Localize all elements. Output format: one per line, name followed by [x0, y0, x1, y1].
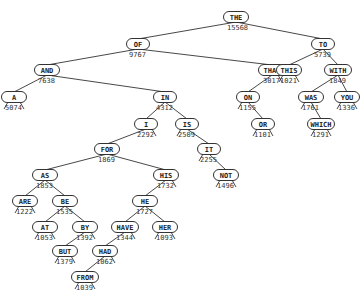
node-count: 1062: [96, 258, 113, 266]
node-count: 15568: [227, 24, 248, 32]
tree-node-at: AT: [32, 221, 58, 233]
tree-edge: [236, 22, 323, 39]
node-count: 4312: [156, 104, 173, 112]
tree-node-but: BUT: [52, 245, 78, 257]
node-count: 3017: [263, 77, 280, 85]
tree-node-are: ARE: [12, 195, 38, 207]
node-count: 1761: [302, 104, 319, 112]
tree-node-her: HER: [152, 221, 178, 233]
node-count: 2292: [137, 131, 154, 139]
tree-edge: [138, 22, 236, 39]
tree-node-you: YOU: [334, 91, 360, 103]
tree-node-is: IS: [175, 118, 199, 130]
tree-node-and: AND: [34, 64, 60, 76]
tree-edge: [47, 75, 165, 92]
tree-node-in: IN: [153, 91, 177, 103]
tree-node-for: FOR: [94, 143, 120, 155]
node-count: 1732: [157, 182, 174, 190]
node-count: 1853: [36, 182, 53, 190]
tree-node-it: IT: [197, 143, 221, 155]
tree-edge: [107, 154, 166, 170]
tree-node-the: THE: [223, 11, 249, 23]
node-count: 1379: [56, 258, 73, 266]
node-count: 5739: [314, 51, 331, 59]
tree-node-have: HAVE: [111, 221, 139, 233]
node-count: 1039: [76, 284, 93, 292]
node-count: 1101: [254, 131, 271, 139]
tree-node-not: NOT: [213, 169, 239, 181]
node-count: 1344: [116, 234, 133, 242]
tree-node-a: A: [1, 91, 27, 103]
node-count: 2255: [200, 156, 217, 164]
tree-node-which: WHICH: [307, 118, 335, 130]
tree-node-his: HIS: [153, 169, 179, 181]
tree-node-or: OR: [251, 118, 275, 130]
node-count: 5074: [5, 104, 22, 112]
node-count: 1392: [76, 234, 93, 242]
tree-node-with: WITH: [324, 64, 352, 76]
tree-node-by: BY: [72, 221, 98, 233]
node-count: 1053: [36, 234, 53, 242]
tree-node-to: TO: [311, 38, 335, 50]
word-frequency-tree: THE15568OF9767TO5739AND7638THAT3017THIS1…: [0, 0, 363, 304]
node-count: 1155: [239, 104, 256, 112]
tree-edge: [47, 49, 138, 65]
node-count: 1869: [98, 156, 115, 164]
tree-node-he: HE: [132, 195, 158, 207]
node-count: 1021: [280, 77, 297, 85]
tree-node-as: AS: [32, 169, 58, 181]
tree-edge: [138, 49, 272, 65]
node-count: 2509: [178, 131, 195, 139]
tree-node-of: OF: [126, 38, 150, 50]
node-count: 1849: [329, 77, 346, 85]
tree-node-was: WAS: [298, 91, 324, 103]
node-count: 1727: [136, 208, 153, 216]
node-count: 1496: [217, 182, 234, 190]
tree-node-had: HAD: [92, 245, 118, 257]
node-count: 1093: [156, 234, 173, 242]
tree-node-i: I: [134, 118, 158, 130]
node-count: 1291: [312, 131, 329, 139]
tree-node-from: FROM: [71, 271, 99, 283]
node-count: 1535: [56, 208, 73, 216]
node-count: 1336: [338, 104, 355, 112]
node-count: 1222: [16, 208, 33, 216]
node-count: 7638: [38, 77, 55, 85]
node-count: 9767: [129, 51, 146, 59]
tree-node-be: BE: [52, 195, 78, 207]
tree-edges: [0, 0, 363, 304]
tree-node-on: ON: [236, 91, 260, 103]
tree-node-this: THIS: [276, 64, 302, 76]
